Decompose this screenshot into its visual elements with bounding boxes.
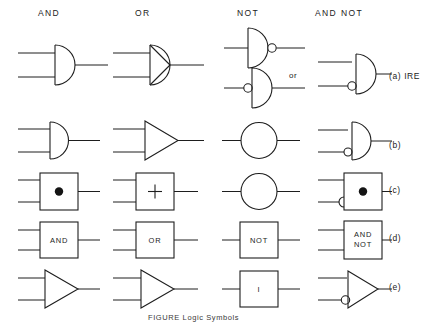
- symbol-not-row-a-variant-2: [224, 68, 305, 108]
- symbol-not-row-b: [222, 123, 300, 159]
- and-not-box-label-line2: NOT: [354, 240, 372, 249]
- symbol-and-not-row-d: AND NOT: [318, 221, 392, 259]
- symbol-and-row-e: [18, 270, 100, 308]
- and-not-box-label-line1: AND: [354, 230, 372, 239]
- symbol-and-not-row-c: [318, 173, 392, 210]
- symbol-or-row-c: [113, 173, 198, 210]
- symbol-or-row-e: [113, 270, 198, 308]
- symbol-and-not-row-a: [318, 54, 392, 94]
- symbol-not-row-e: I: [222, 271, 300, 307]
- or-box-label: OR: [149, 236, 162, 245]
- symbol-or-row-d: OR: [113, 222, 198, 258]
- not-box-label: NOT: [250, 236, 268, 245]
- symbol-and-row-c: [18, 173, 100, 210]
- symbol-and-row-a: [18, 45, 108, 85]
- symbol-not-row-a-variant-1: [224, 28, 305, 68]
- symbol-not-row-d: NOT: [222, 222, 300, 258]
- symbol-or-row-b: [113, 121, 204, 160]
- symbol-and-row-b: [18, 122, 100, 159]
- i-box-label: I: [258, 285, 261, 294]
- and-box-label: AND: [50, 236, 68, 245]
- symbol-and-not-row-e: [318, 271, 392, 308]
- symbol-and-not-row-b: [318, 122, 392, 160]
- symbol-not-row-c: [222, 174, 300, 210]
- symbol-or-row-a: [113, 45, 204, 85]
- symbol-and-row-d: AND: [18, 222, 100, 258]
